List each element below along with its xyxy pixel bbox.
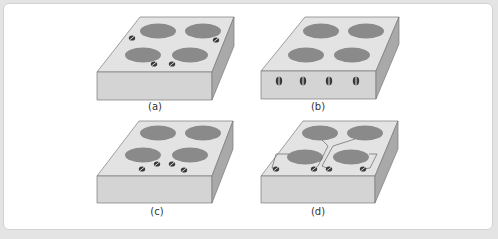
burner-icon <box>185 24 221 39</box>
cooktop-diagram <box>0 0 498 239</box>
knob-icon <box>129 35 135 40</box>
burner-icon <box>172 148 208 163</box>
panel-c-cooktop <box>97 121 233 203</box>
burner-icon <box>125 148 161 163</box>
burner-icon <box>288 48 324 63</box>
panel-a-label: (a) <box>148 101 162 112</box>
burner-icon <box>140 126 176 141</box>
burner-icon <box>303 24 339 39</box>
knob-icon <box>169 161 175 166</box>
burner-icon <box>333 150 369 165</box>
knob-icon <box>213 37 219 42</box>
burner-icon <box>334 48 370 63</box>
panel-d-cooktop <box>261 121 398 203</box>
knob-icon <box>154 161 160 166</box>
panel-d-label: (d) <box>311 206 325 217</box>
burner-icon <box>347 126 383 141</box>
burner-icon <box>302 126 338 141</box>
burner-icon <box>125 48 161 63</box>
burner-icon <box>287 150 323 165</box>
burner-icon <box>348 24 384 39</box>
knob-icon <box>326 166 332 171</box>
knob-icon <box>181 167 187 172</box>
knob-icon <box>276 77 282 85</box>
knob-icon <box>311 166 317 171</box>
knob-icon <box>139 166 145 171</box>
knob-icon <box>273 166 279 171</box>
knob-icon <box>360 166 366 171</box>
burner-icon <box>140 24 176 39</box>
panel-a-cooktop <box>97 17 234 100</box>
knob-icon <box>326 77 332 85</box>
knob-icon <box>151 61 157 66</box>
knob-icon <box>300 77 306 85</box>
knob-icon <box>353 77 359 85</box>
knob-icon <box>169 61 175 66</box>
burner-icon <box>172 48 208 63</box>
panel-b-label: (b) <box>311 101 325 112</box>
burner-icon <box>185 126 221 141</box>
panel-b-cooktop <box>261 17 399 99</box>
panel-c-label: (c) <box>150 206 163 217</box>
